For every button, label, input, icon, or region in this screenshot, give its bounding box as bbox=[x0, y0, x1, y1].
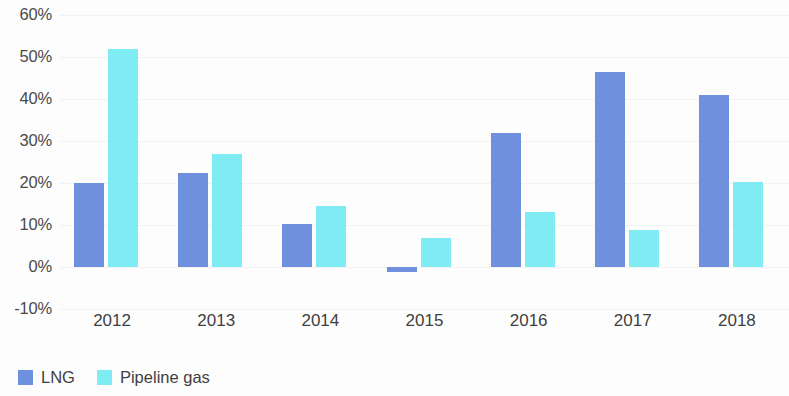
legend-label-lng: LNG bbox=[41, 369, 75, 386]
bar-pipeline-gas-2013 bbox=[212, 154, 242, 267]
bar-pipeline-gas-2017 bbox=[629, 230, 659, 267]
gridline bbox=[60, 57, 789, 58]
legend-swatch-pipeline-gas bbox=[97, 370, 112, 385]
bar-lng-2018 bbox=[699, 95, 729, 267]
bar-lng-2014 bbox=[282, 224, 312, 267]
chart-page: 2012201320142015201620172018 LNG Pipelin… bbox=[0, 0, 789, 396]
bar-pipeline-gas-2016 bbox=[525, 212, 555, 267]
legend-item-pipeline-gas[interactable]: Pipeline gas bbox=[97, 369, 210, 386]
bar-lng-2017 bbox=[595, 72, 625, 267]
legend-swatch-lng bbox=[18, 370, 33, 385]
gridline bbox=[60, 267, 789, 268]
bar-pipeline-gas-2018 bbox=[733, 182, 763, 267]
x-axis-tick-label: 2016 bbox=[477, 312, 581, 329]
y-axis-tick-label: 60% bbox=[0, 6, 52, 23]
y-axis-tick-label: 30% bbox=[0, 132, 52, 149]
legend-item-lng[interactable]: LNG bbox=[18, 369, 75, 386]
bar-pipeline-gas-2014 bbox=[316, 206, 346, 267]
gridline bbox=[60, 141, 789, 142]
gridline bbox=[60, 15, 789, 16]
y-axis-tick-label: -10% bbox=[0, 300, 52, 317]
x-axis-tick-label: 2014 bbox=[268, 312, 372, 329]
x-axis-tick-label: 2015 bbox=[372, 312, 476, 329]
gridline bbox=[60, 183, 789, 184]
x-axis-tick-label: 2018 bbox=[685, 312, 789, 329]
legend-label-pipeline-gas: Pipeline gas bbox=[120, 369, 210, 386]
y-axis-tick-label: 0% bbox=[0, 258, 52, 275]
bar-lng-2016 bbox=[491, 133, 521, 267]
bar-lng-2015 bbox=[387, 267, 417, 272]
x-axis-tick-label: 2017 bbox=[581, 312, 685, 329]
bar-pipeline-gas-2015 bbox=[421, 238, 451, 267]
x-axis-tick-label: 2013 bbox=[164, 312, 268, 329]
bar-lng-2013 bbox=[178, 173, 208, 268]
y-axis-tick-label: 40% bbox=[0, 90, 52, 107]
y-axis-tick-label: 50% bbox=[0, 48, 52, 65]
bar-pipeline-gas-2012 bbox=[108, 49, 138, 267]
gridline bbox=[60, 309, 789, 310]
chart-legend: LNG Pipeline gas bbox=[18, 369, 210, 386]
y-axis-tick-label: 10% bbox=[0, 216, 52, 233]
gridline bbox=[60, 225, 789, 226]
x-axis-tick-label: 2012 bbox=[60, 312, 164, 329]
plot-area: 2012201320142015201620172018 bbox=[60, 0, 789, 300]
bar-lng-2012 bbox=[74, 183, 104, 267]
y-axis-tick-label: 20% bbox=[0, 174, 52, 191]
gridline bbox=[60, 99, 789, 100]
